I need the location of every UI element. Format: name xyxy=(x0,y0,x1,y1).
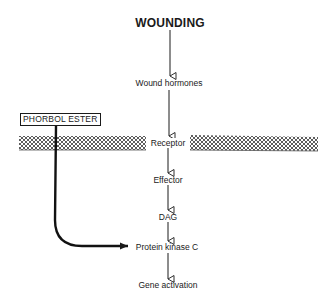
phorbol-ester-box: PHORBOL ESTER xyxy=(20,113,101,126)
membrane-right-segment xyxy=(190,135,318,151)
node-effector: Effector xyxy=(153,175,182,185)
membrane-left-segment xyxy=(19,136,146,150)
node-gene-activation: Gene activation xyxy=(138,280,197,290)
wounding-title: WOUNDING xyxy=(135,17,205,30)
node-wound-hormones: Wound hormones xyxy=(136,78,203,88)
node-receptor: Receptor xyxy=(148,138,189,148)
node-dag: DAG xyxy=(159,212,177,222)
diagram-canvas xyxy=(0,0,335,303)
node-protein-kinase-c: Protein kinase C xyxy=(136,242,198,252)
